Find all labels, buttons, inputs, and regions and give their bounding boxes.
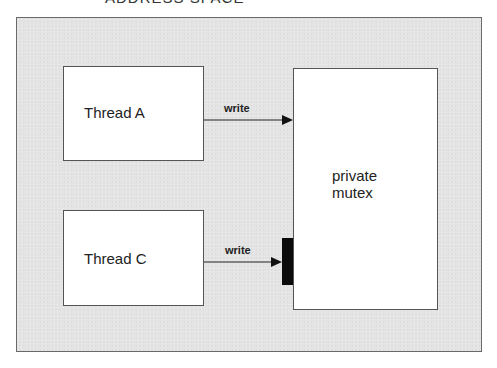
thread-a-label: Thread A [84,104,145,121]
thread-c-box: Thread C [63,210,204,306]
private-mutex-box: private mutex [293,68,438,310]
blocked-lock-bar [282,238,293,285]
mutex-label: private mutex [332,167,377,201]
thread-a-box: Thread A [63,66,204,161]
thread-c-label: Thread C [84,250,147,267]
address-space-caption: ADDRESS SPACE [105,0,244,6]
mutex-label-line1: private [332,167,377,184]
mutex-label-line2: mutex [332,184,377,201]
write-label-a: write [224,102,250,114]
write-label-c: write [225,244,251,256]
